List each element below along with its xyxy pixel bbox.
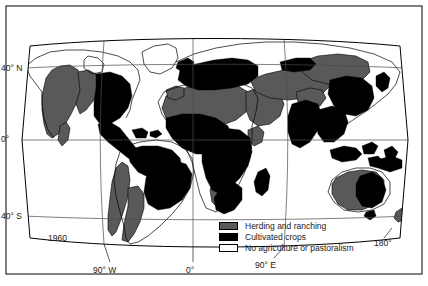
legend-label-none: No agriculture or pastoralism (245, 244, 354, 253)
legend-item-none: No agriculture or pastoralism (219, 243, 379, 253)
longitude-label-90w: 90° W (93, 266, 116, 275)
legend-swatch-cultivated (219, 233, 238, 241)
year-label: 1960 (48, 233, 67, 243)
latitude-label-40n: 40° N (1, 64, 22, 73)
latitude-label-40s: 40° S (1, 212, 22, 221)
legend-item-cultivated: Cultivated crops (219, 232, 379, 242)
map-legend: Herding and ranching Cultivated crops No… (219, 221, 379, 254)
legend-item-herding: Herding and ranching (219, 221, 379, 231)
legend-label-cultivated: Cultivated crops (245, 233, 306, 242)
world-map-figure: 40° N 0° 40° S 90° W 0° 90° E 180° 1960 … (0, 0, 428, 286)
latitude-label-0: 0° (1, 135, 9, 144)
legend-swatch-none (219, 244, 238, 252)
legend-swatch-herding (219, 222, 238, 230)
legend-label-herding: Herding and ranching (245, 222, 326, 231)
longitude-label-90e: 90° E (255, 261, 276, 270)
longitude-label-0: 0° (186, 266, 194, 275)
